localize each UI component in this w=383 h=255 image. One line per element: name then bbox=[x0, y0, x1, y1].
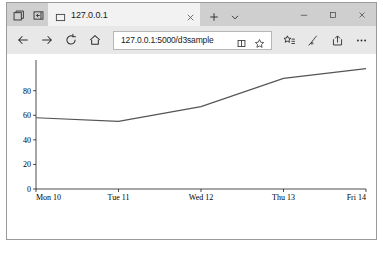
book-icon[interactable] bbox=[236, 35, 247, 46]
maximize-icon[interactable] bbox=[318, 3, 347, 26]
y-tick-label: 80 bbox=[23, 87, 31, 96]
tab-overview-icon[interactable] bbox=[12, 8, 25, 21]
page-content: 020406080Mon 10Tue 11Wed 12Thu 13Fri 14 bbox=[7, 54, 376, 239]
home-icon[interactable] bbox=[83, 28, 107, 52]
x-tick-label: Fri 14 bbox=[347, 193, 366, 202]
x-tick-label: Thu 13 bbox=[272, 193, 295, 202]
tab-title: 127.0.0.1 bbox=[71, 10, 180, 20]
tab-strip-tools bbox=[7, 3, 48, 26]
y-tick-label: 20 bbox=[23, 160, 31, 169]
plus-icon[interactable] bbox=[208, 9, 220, 21]
arrow-left-icon[interactable] bbox=[11, 28, 35, 52]
tab-strip: 127.0.0.1 bbox=[7, 3, 376, 26]
address-bar-icons bbox=[236, 35, 267, 46]
address-url-text[interactable]: 127.0.0.1:5000/d3sample bbox=[121, 35, 236, 45]
chart-line-series bbox=[36, 69, 366, 122]
browser-tab-active[interactable]: 127.0.0.1 bbox=[48, 3, 200, 26]
x-tick-label: Tue 11 bbox=[108, 193, 130, 202]
x-tick-label: Wed 12 bbox=[189, 193, 213, 202]
arrow-right-icon[interactable] bbox=[35, 28, 59, 52]
address-bar[interactable]: 127.0.0.1:5000/d3sample bbox=[113, 31, 272, 50]
pen-icon[interactable] bbox=[302, 29, 324, 51]
ellipsis-icon[interactable] bbox=[350, 29, 372, 51]
toolbar-right bbox=[278, 29, 372, 51]
screenshot-root: 127.0.0.1 bbox=[0, 0, 383, 255]
y-tick-label: 0 bbox=[27, 185, 31, 194]
minimize-icon[interactable] bbox=[289, 3, 318, 26]
navigation-toolbar: 127.0.0.1:5000/d3sample bbox=[7, 26, 376, 54]
x-tick-label: Mon 10 bbox=[36, 193, 61, 202]
star-list-icon[interactable] bbox=[278, 29, 300, 51]
refresh-icon[interactable] bbox=[59, 28, 83, 52]
close-icon[interactable] bbox=[185, 9, 196, 20]
y-tick-label: 60 bbox=[23, 111, 31, 120]
y-tick-label: 40 bbox=[23, 136, 31, 145]
chevron-down-icon[interactable] bbox=[229, 9, 241, 21]
page-icon bbox=[55, 9, 66, 20]
tab-strip-right bbox=[200, 3, 241, 26]
browser-window: 127.0.0.1 bbox=[6, 2, 377, 240]
share-icon[interactable] bbox=[326, 29, 348, 51]
star-icon[interactable] bbox=[254, 35, 265, 46]
set-aside-tabs-icon[interactable] bbox=[32, 8, 45, 21]
window-controls bbox=[289, 3, 376, 26]
d3-line-chart: 020406080Mon 10Tue 11Wed 12Thu 13Fri 14 bbox=[7, 54, 376, 239]
close-window-icon[interactable] bbox=[347, 3, 376, 26]
